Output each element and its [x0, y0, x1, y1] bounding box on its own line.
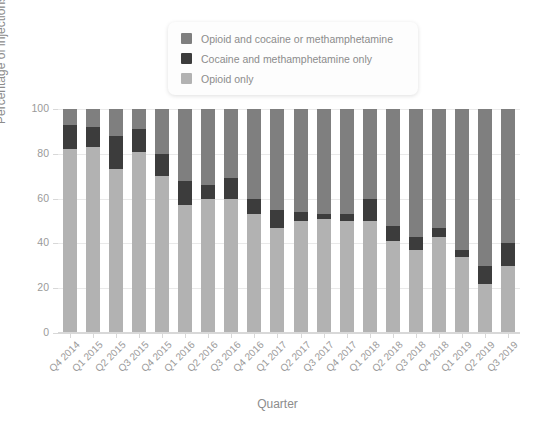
- x-tick-mark: [439, 333, 440, 338]
- x-tick-mark: [162, 333, 163, 338]
- bar-segment[interactable]: [455, 257, 469, 333]
- bar-segment[interactable]: [86, 109, 100, 127]
- bar-segment[interactable]: [201, 185, 215, 198]
- bar-segment[interactable]: [270, 109, 284, 210]
- y-tick-mark: [53, 199, 58, 200]
- bar-stack[interactable]: [201, 109, 215, 333]
- bar-segment[interactable]: [478, 109, 492, 266]
- bar-segment[interactable]: [247, 199, 261, 215]
- bar-segment[interactable]: [432, 109, 446, 228]
- gridline: [58, 199, 520, 200]
- x-tick-mark: [116, 333, 117, 338]
- bar-stack[interactable]: [155, 109, 169, 333]
- bar-stack[interactable]: [247, 109, 261, 333]
- bar-segment[interactable]: [317, 219, 331, 333]
- bar-stack[interactable]: [340, 109, 354, 333]
- bar-segment[interactable]: [501, 266, 515, 333]
- y-tick-label: 100: [19, 103, 49, 113]
- bar-segment[interactable]: [155, 176, 169, 333]
- bar-segment[interactable]: [109, 109, 123, 136]
- bar-segment[interactable]: [178, 181, 192, 206]
- plot-area: [58, 109, 520, 333]
- legend-item-cocaine-and-methamphetamine-only[interactable]: Cocaine and methamphetamine only: [181, 52, 406, 65]
- bar-segment[interactable]: [132, 152, 146, 333]
- bar-stack[interactable]: [270, 109, 284, 333]
- y-tick-mark: [53, 109, 58, 110]
- bar-stack[interactable]: [409, 109, 423, 333]
- bar-segment[interactable]: [270, 210, 284, 228]
- bar-segment[interactable]: [155, 154, 169, 176]
- bar-segment[interactable]: [247, 109, 261, 199]
- bar-segment[interactable]: [363, 199, 377, 221]
- bar-segment[interactable]: [63, 125, 77, 150]
- bar-segment[interactable]: [386, 226, 400, 242]
- bar-segment[interactable]: [340, 214, 354, 221]
- bar-stack[interactable]: [224, 109, 238, 333]
- bar-segment[interactable]: [132, 129, 146, 151]
- bar-segment[interactable]: [247, 214, 261, 333]
- bar-segment[interactable]: [155, 109, 169, 154]
- x-tick-mark: [416, 333, 417, 338]
- x-tick-mark: [462, 333, 463, 338]
- bar-stack[interactable]: [363, 109, 377, 333]
- bar-stack[interactable]: [132, 109, 146, 333]
- legend-item-opioid-and-cocaine-or-methamphetamine[interactable]: Opioid and cocaine or methamphetamine: [181, 32, 406, 45]
- bar-segment[interactable]: [224, 178, 238, 198]
- bar-segment[interactable]: [501, 243, 515, 265]
- bar-stack[interactable]: [317, 109, 331, 333]
- bar-segment[interactable]: [317, 109, 331, 214]
- bar-segment[interactable]: [363, 109, 377, 199]
- bar-segment[interactable]: [294, 221, 308, 333]
- bar-segment[interactable]: [201, 109, 215, 185]
- y-tick-label: 0: [19, 327, 49, 337]
- bar-segment[interactable]: [409, 237, 423, 250]
- bar-stack[interactable]: [109, 109, 123, 333]
- legend-item-label: Opioid only: [201, 73, 254, 85]
- bar-segment[interactable]: [224, 199, 238, 333]
- bar-segment[interactable]: [270, 228, 284, 333]
- x-axis-line: [58, 332, 520, 333]
- bar-segment[interactable]: [109, 136, 123, 170]
- bar-stack[interactable]: [178, 109, 192, 333]
- bar-stack[interactable]: [478, 109, 492, 333]
- bar-segment[interactable]: [224, 109, 238, 178]
- bar-segment[interactable]: [363, 221, 377, 333]
- bar-segment[interactable]: [340, 109, 354, 214]
- x-tick-mark: [185, 333, 186, 338]
- bar-segment[interactable]: [478, 284, 492, 333]
- bar-segment[interactable]: [409, 250, 423, 333]
- bar-segment[interactable]: [294, 109, 308, 212]
- bar-stack[interactable]: [294, 109, 308, 333]
- y-tick-mark: [53, 154, 58, 155]
- bar-segment[interactable]: [386, 241, 400, 333]
- bar-segment[interactable]: [478, 266, 492, 284]
- bar-segment[interactable]: [501, 109, 515, 243]
- bar-stack[interactable]: [386, 109, 400, 333]
- bar-stack[interactable]: [86, 109, 100, 333]
- bar-stack[interactable]: [501, 109, 515, 333]
- bar-segment[interactable]: [178, 109, 192, 181]
- bar-segment[interactable]: [455, 109, 469, 250]
- bar-segment[interactable]: [432, 228, 446, 237]
- bar-segment[interactable]: [132, 109, 146, 129]
- bar-stack[interactable]: [455, 109, 469, 333]
- bar-segment[interactable]: [109, 169, 123, 333]
- bar-segment[interactable]: [63, 149, 77, 333]
- bar-segment[interactable]: [63, 109, 77, 125]
- legend-swatch-icon: [181, 73, 192, 84]
- bar-segment[interactable]: [86, 127, 100, 147]
- bar-stack[interactable]: [432, 109, 446, 333]
- bar-segment[interactable]: [178, 205, 192, 333]
- gridline: [58, 109, 520, 110]
- y-tick-label: 60: [19, 193, 49, 203]
- bar-segment[interactable]: [340, 221, 354, 333]
- bar-segment[interactable]: [432, 237, 446, 333]
- bar-stack[interactable]: [63, 109, 77, 333]
- bar-segment[interactable]: [455, 250, 469, 257]
- bar-segment[interactable]: [409, 109, 423, 237]
- bar-segment[interactable]: [386, 109, 400, 225]
- bar-segment[interactable]: [294, 212, 308, 221]
- legend-item-opioid-only[interactable]: Opioid only: [181, 72, 406, 85]
- bar-segment[interactable]: [86, 147, 100, 333]
- bar-segment[interactable]: [201, 199, 215, 333]
